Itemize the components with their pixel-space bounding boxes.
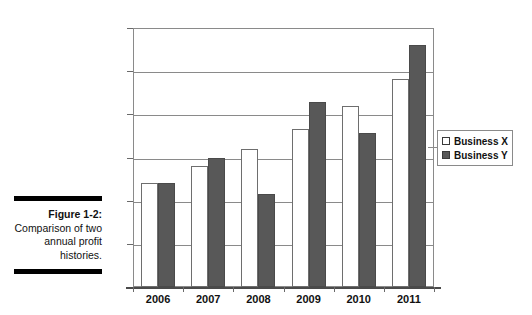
bar-2007-business-x	[191, 166, 208, 287]
hollow-square-icon	[442, 137, 450, 145]
bar-2006-business-x	[141, 183, 158, 287]
x-axis-tick-mark	[384, 287, 385, 292]
x-axis-tick-label-2007: 2007	[183, 293, 233, 305]
legend-leader-line	[428, 147, 437, 148]
bar-2010-business-x	[342, 106, 359, 287]
chart-legend: Business XBusiness Y	[437, 130, 513, 166]
x-axis-tick-label-2011: 2011	[384, 293, 434, 305]
bar-2008-business-y	[258, 194, 275, 287]
bar-2009-business-x	[292, 129, 309, 287]
bar-chart: £0£50,000£100,000£150,000£200,000£250,00…	[0, 0, 532, 315]
bar-2009-business-y	[309, 102, 326, 287]
x-axis-tick-mark	[334, 287, 335, 292]
x-axis-tick-mark	[434, 287, 435, 292]
bar-2007-business-y	[208, 158, 225, 288]
x-axis-tick-mark	[183, 287, 184, 292]
x-axis-tick-label-2010: 2010	[334, 293, 384, 305]
x-axis-tick-mark	[233, 287, 234, 292]
x-axis-tick-label-2009: 2009	[284, 293, 334, 305]
filled-square-icon	[442, 151, 450, 159]
x-axis-tick-label-2008: 2008	[233, 293, 283, 305]
legend-item-business-y[interactable]: Business Y	[442, 148, 508, 162]
x-axis-tick-label-2006: 2006	[133, 293, 183, 305]
bar-2006-business-y	[158, 183, 175, 287]
bar-2008-business-x	[241, 149, 258, 287]
bar-2011-business-y	[409, 45, 426, 287]
bar-2010-business-y	[359, 133, 376, 287]
x-axis-tick-mark	[284, 287, 285, 292]
x-axis-tick-mark	[133, 287, 134, 292]
bar-2011-business-x	[392, 79, 409, 287]
legend-item-label: Business Y	[454, 150, 508, 161]
bars-group	[133, 28, 434, 287]
legend-item-business-x[interactable]: Business X	[442, 134, 508, 148]
legend-item-label: Business X	[454, 136, 508, 147]
